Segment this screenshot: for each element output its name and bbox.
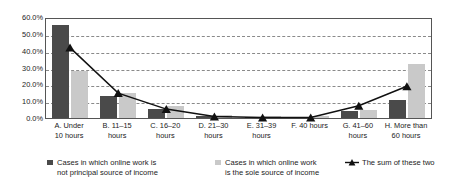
x-label-line1: G. 41–60 [343, 121, 373, 130]
x-label-line1: D. 21–30 [198, 121, 228, 130]
x-axis: A. Under 10 hours B. 11–15 hours C. 16–2… [45, 121, 432, 149]
x-label-line2: hours [204, 131, 223, 140]
x-tick-label-d: D. 21–30 hours [189, 121, 237, 140]
legend-swatch-dark-icon [47, 160, 53, 166]
y-tick-label: 20.0% [3, 81, 43, 89]
x-label-line1: B. 11–15 [103, 121, 132, 130]
chart-container: 60.0% 50.0% 40.0% 30.0% 20.0% 10.0% 0.0% [0, 0, 451, 192]
legend-label-line2: not principal source of income [57, 168, 207, 178]
x-label-line2: hours [252, 131, 271, 140]
x-tick-label-f: F. 40 hours [286, 121, 334, 131]
sum-line-markers [65, 44, 411, 122]
legend-label-line1: Cases in which online work is [57, 158, 207, 168]
x-label-line2: hours [108, 131, 127, 140]
x-label-line2: 10 hours [55, 131, 84, 140]
y-tick-label: 60.0% [3, 14, 43, 22]
x-label-line1: A. Under [54, 121, 83, 130]
plot-inner [46, 19, 431, 118]
x-label-line1: E. 31–39 [247, 121, 277, 130]
sum-line-series [46, 19, 433, 120]
x-tick-label-g: G. 41–60 hours [334, 121, 382, 140]
x-tick-label-h: H. More than 60 hours [379, 121, 433, 140]
legend-swatch-light-icon [215, 160, 221, 166]
legend-label-line1: The sum of these two [362, 158, 451, 168]
x-label-line1: F. 40 hours [291, 121, 328, 130]
x-label-line1: H. More than [385, 121, 428, 130]
legend-item-not-principal: Cases in which online work is not princi… [47, 158, 207, 179]
x-label-line1: C. 16–20 [150, 121, 180, 130]
x-label-line2: 60 hours [392, 131, 421, 140]
y-tick-label: 30.0% [3, 65, 43, 73]
legend-label-line2: is the sole source of income [225, 168, 375, 178]
x-tick-label-c: C. 16–20 hours [141, 121, 189, 140]
y-tick-label: 50.0% [3, 31, 43, 39]
x-tick-label-b: B. 11–15 hours [93, 121, 141, 140]
y-tick-label: 0.0% [3, 115, 43, 123]
chart-legend: Cases in which online work is not princi… [0, 158, 451, 188]
x-tick-label-a: A. Under 10 hours [45, 121, 93, 140]
x-tick-label-e: E. 31–39 hours [238, 121, 286, 140]
x-label-line2: hours [349, 131, 368, 140]
y-tick-label: 10.0% [3, 98, 43, 106]
plot-area [45, 18, 432, 119]
legend-item-sum: The sum of these two [345, 158, 451, 168]
y-axis: 60.0% 50.0% 40.0% 30.0% 20.0% 10.0% 0.0% [0, 18, 43, 119]
x-label-line2: hours [156, 131, 175, 140]
legend-line-triangle-icon [345, 158, 359, 167]
y-tick-label: 40.0% [3, 48, 43, 56]
